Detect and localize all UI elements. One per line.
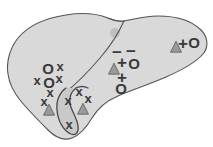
cross-marker: x (65, 117, 73, 132)
circle-marker: O (115, 80, 127, 97)
liver-diagram-canvas: OxxOxxxxxxx−−+O+O+O (0, 0, 213, 147)
right-lobe-marker-group: +O (178, 34, 200, 53)
liver-schematic-svg: OxxOxxxxxxx−−+O+O+O (0, 0, 213, 147)
plus-marker: + (178, 34, 188, 53)
cross-marker: x (55, 71, 63, 86)
circle-marker: O (128, 55, 140, 72)
cross-marker: x (75, 84, 83, 99)
cross-marker: x (33, 73, 41, 88)
cross-marker: x (64, 93, 72, 108)
circle-marker: O (188, 34, 200, 51)
cross-marker: x (40, 94, 48, 109)
cross-marker: x (84, 91, 92, 106)
